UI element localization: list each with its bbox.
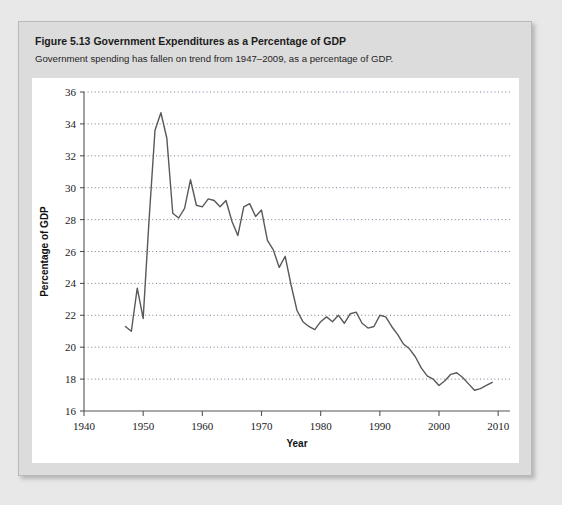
y-axis-tick-labels: 1618202224262830323436: [65, 86, 77, 417]
figure-number: Figure 5.13: [35, 35, 90, 47]
svg-text:1950: 1950: [132, 420, 155, 432]
svg-text:1960: 1960: [191, 420, 214, 432]
svg-text:34: 34: [65, 118, 77, 130]
x-axis-title: Year: [286, 438, 307, 449]
svg-text:2010: 2010: [487, 420, 510, 432]
svg-text:36: 36: [65, 86, 77, 98]
chart-plot-card: 1618202224262830323436 19401950196019701…: [32, 78, 519, 463]
svg-text:2000: 2000: [428, 420, 451, 432]
svg-text:26: 26: [65, 246, 77, 258]
y-tick-marks: [80, 92, 84, 411]
svg-text:1940: 1940: [73, 420, 96, 432]
svg-text:1990: 1990: [369, 420, 392, 432]
svg-text:1970: 1970: [251, 420, 274, 432]
line-chart: 1618202224262830323436 19401950196019701…: [32, 78, 519, 463]
figure-panel: Figure 5.13 Government Expenditures as a…: [18, 21, 532, 476]
svg-text:30: 30: [65, 182, 77, 194]
figure-caption: Figure 5.13 Government Expenditures as a…: [35, 34, 519, 66]
figure-title-text: Government Expenditures as a Percentage …: [93, 35, 346, 47]
figure-subtitle: Government spending has fallen on trend …: [35, 51, 519, 66]
svg-text:18: 18: [65, 373, 77, 385]
svg-text:16: 16: [65, 405, 77, 417]
x-axis-tick-labels: 19401950196019701980199020002010: [73, 420, 510, 432]
svg-text:22: 22: [65, 309, 76, 321]
svg-text:32: 32: [65, 150, 76, 162]
svg-text:20: 20: [65, 341, 77, 353]
y-axis-title: Percentage of GDP: [39, 206, 50, 297]
x-tick-marks: [84, 411, 498, 416]
svg-text:1980: 1980: [310, 420, 333, 432]
figure-title: Figure 5.13 Government Expenditures as a…: [35, 34, 519, 49]
svg-text:24: 24: [65, 277, 77, 289]
svg-text:28: 28: [65, 214, 77, 226]
